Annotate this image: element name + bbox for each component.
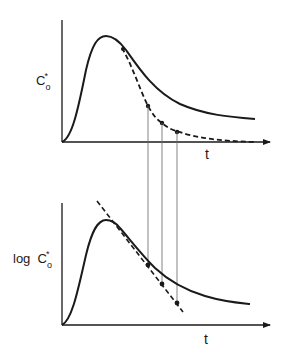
bottom-point-1 <box>146 263 151 268</box>
bottom-y-axis-label: log Co* <box>13 252 50 265</box>
bottom-y-label-prefix: log <box>13 251 30 266</box>
top-dashed-curve <box>122 48 255 142</box>
top-y-axis-label: Co* <box>36 74 48 87</box>
bottom-dashed-fit-line <box>97 201 183 312</box>
top-solid-curve <box>62 36 255 142</box>
bottom-solid-curve <box>62 220 250 325</box>
top-y-label-subscript: o <box>45 82 50 92</box>
bottom-y-label-superscript: * <box>46 249 50 259</box>
bottom-panel <box>62 201 270 325</box>
bottom-point-3 <box>175 301 180 306</box>
diagram-canvas <box>0 0 284 361</box>
bottom-x-axis-label: t <box>204 332 208 346</box>
bottom-y-label-subscript: o <box>47 260 52 270</box>
top-panel <box>62 20 270 142</box>
top-point-1 <box>121 47 125 51</box>
top-x-axis-label: t <box>205 147 209 161</box>
top-y-label-superscript: * <box>44 71 48 81</box>
bottom-point-2 <box>160 282 165 287</box>
